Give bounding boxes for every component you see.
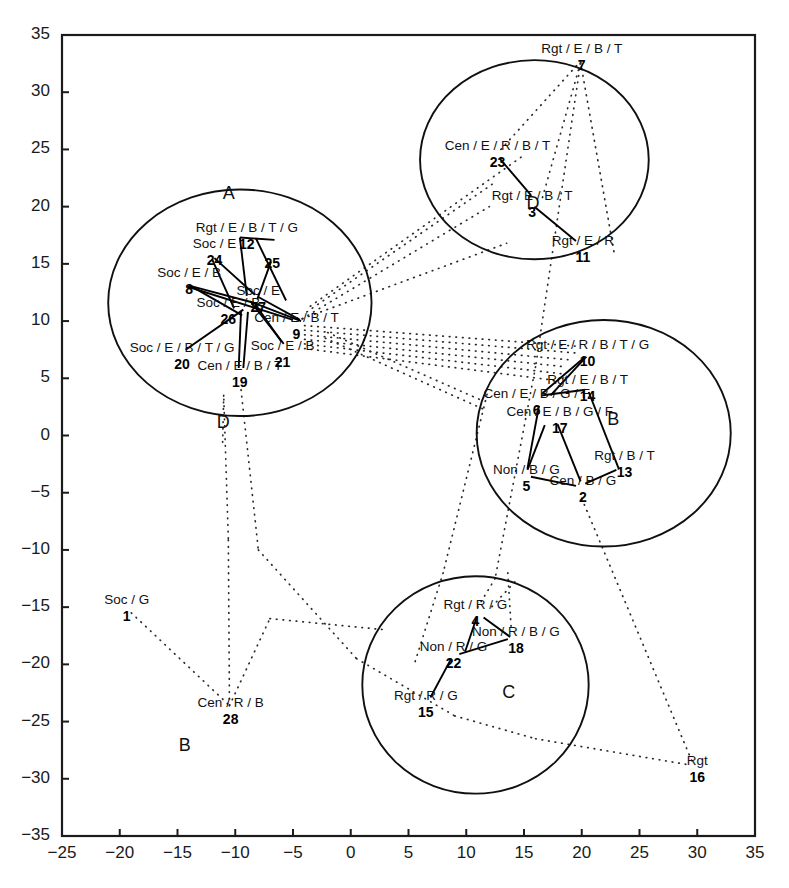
y-axis-tick-label: 30 [0,81,50,101]
point-label-6: Cen / E / B / G / F [483,387,590,401]
point-label-15: Rgt / R / G [394,689,458,703]
point-label-20: Soc / E / B / T / G [130,341,235,355]
x-axis-tick-label: 25 [610,843,670,863]
point-id-2: 2 [579,489,587,505]
x-axis-tick-label: 15 [494,843,554,863]
point-label-9: Cen / E / B / T [254,311,339,325]
x-axis-tick-label: 0 [321,843,381,863]
point-id-14: 14 [580,388,596,404]
x-axis-tick-label: 10 [436,843,496,863]
point-id-24: 24 [207,252,223,268]
point-id-15: 15 [418,704,434,720]
point-id-26: 26 [221,311,237,327]
y-axis-tick-label: −25 [0,711,50,731]
cluster-ellipses-group [108,60,731,793]
point-label-10: Rgt / E / R / B / T / G [526,338,649,352]
point-label-14: Rgt / E / B / T [547,373,628,387]
cluster-letter-b: B [179,735,191,756]
point-label-23: Cen / E / R / B / T [445,139,551,153]
point-id-17: 17 [552,420,568,436]
cluster-letter-c: C [502,682,515,703]
point-id-25: 25 [264,255,280,271]
point-label-28: Cen / R / B [198,696,264,710]
x-axis-tick-label: 30 [667,843,727,863]
y-axis-tick-label: −30 [0,768,50,788]
point-id-8: 8 [185,281,193,297]
scatter-plot-svg [0,0,789,888]
cluster-letter-a: A [223,183,235,204]
point-label-5: Non / B / G [493,463,560,477]
point-label-16: Rgt [687,754,708,768]
point-label-27: Soc / E [237,284,281,298]
y-axis-tick-label: −5 [0,482,50,502]
point-label-19: Cen / E / B / T [198,359,283,373]
point-id-23: 23 [490,154,506,170]
y-axis-tick-label: −15 [0,596,50,616]
point-id-13: 13 [617,464,633,480]
point-id-3: 3 [528,204,536,220]
point-id-20: 20 [174,356,190,372]
point-label-22: Non / R / G [420,640,488,654]
point-label-12: Rgt / E / B / T / G [196,221,298,235]
y-axis-tick-label: −35 [0,825,50,845]
point-id-27: 27 [251,299,267,315]
point-id-7: 7 [578,57,586,73]
y-axis-tick-label: 5 [0,367,50,387]
x-axis-tick-label: 35 [725,843,785,863]
point-label-18: Non / R / B / G [472,625,560,639]
point-id-16: 16 [689,769,705,785]
cluster-letter-d: D [217,412,230,433]
x-axis-tick-label: 20 [552,843,612,863]
point-id-1: 1 [123,608,131,624]
point-label-13: Rgt / B / T [594,449,655,463]
point-label-21: Soc / E / B [251,339,315,353]
point-label-3: Rgt / E / B / T [492,189,573,203]
plot-frame [62,35,755,836]
chart-canvas: 35302520151050−5−10−15−20−25−30−35−25−20… [0,0,789,888]
y-axis-tick-label: 10 [0,310,50,330]
axis-ticks [62,35,755,836]
point-id-21: 21 [275,354,291,370]
x-axis-tick-label: −15 [148,843,208,863]
x-axis-tick-label: −25 [32,843,92,863]
point-id-5: 5 [522,478,530,494]
y-axis-tick-label: 20 [0,196,50,216]
x-axis-tick-label: −10 [205,843,265,863]
point-id-19: 19 [232,374,248,390]
y-axis-tick-label: 25 [0,138,50,158]
y-axis-tick-label: 15 [0,253,50,273]
point-id-28: 28 [223,711,239,727]
point-id-12: 12 [239,236,255,252]
point-label-7: Rgt / E / B / T [541,42,622,56]
point-label-4: Rgt / R / G [444,598,508,612]
point-label-24: Soc / E [193,237,237,251]
point-label-11: Rgt / E / R [552,234,614,248]
x-axis-tick-label: −5 [263,843,323,863]
point-label-17: Cen / E / B / G / F [507,405,614,419]
point-id-11: 11 [575,249,590,265]
y-axis-tick-label: 35 [0,24,50,44]
x-axis-tick-label: 5 [379,843,439,863]
y-axis-tick-label: −10 [0,539,50,559]
point-label-1: Soc / G [104,593,149,607]
x-axis-tick-label: −20 [90,843,150,863]
point-id-18: 18 [508,640,524,656]
y-axis-tick-label: 0 [0,425,50,445]
point-id-10: 10 [580,353,596,369]
y-axis-tick-label: −20 [0,653,50,673]
point-id-22: 22 [446,655,462,671]
